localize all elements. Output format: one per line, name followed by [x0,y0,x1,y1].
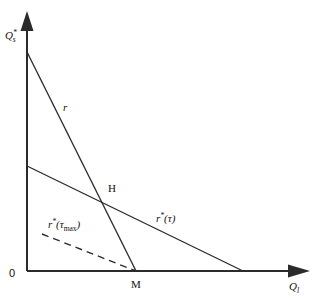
monopoly-point-label: M [131,278,141,290]
axes-group [21,11,311,278]
curve-r-star-tau-label: r*(τ) [156,211,176,225]
figure-container: Q*s Ql 0 r H M r*(τ) r*(τmax) [0,0,317,300]
y-axis-label-subscript: s [13,35,16,44]
curves-group [27,52,243,271]
x-axis-label-base: Q [289,280,297,292]
curve-r-star-tau-max [42,234,136,271]
r-star-taumax-paren-close: ) [76,218,81,231]
labels-group: Q*s Ql 0 r H M r*(τ) r*(τmax) [5,28,299,295]
horizontal-axis-arrow-icon [288,265,310,278]
origin-label: 0 [9,267,15,279]
x-axis-label-subscript: l [297,286,299,295]
x-axis-label: Ql [289,280,299,295]
curve-r-label: r [63,101,68,113]
y-axis-label: Q*s [5,28,17,44]
intersection-point-label: H [108,182,116,194]
curve-r-star-tau-max-label: r*(τmax) [48,217,81,233]
curve-r [27,52,136,271]
r-star-taumax-subscript: max [64,224,77,233]
r-star-tau-argument: (τ) [164,212,176,225]
economics-reaction-function-diagram: Q*s Ql 0 r H M r*(τ) r*(τmax) [0,0,317,300]
vertical-axis-arrow-icon [21,11,34,31]
